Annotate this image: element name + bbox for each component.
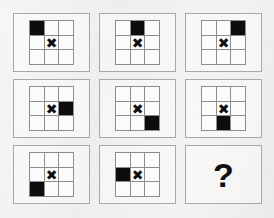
empty-cell: [59, 21, 74, 36]
empty-cell: ✖: [45, 36, 60, 51]
filled-cell: [145, 116, 160, 131]
empty-cell: [131, 153, 146, 168]
empty-cell: [116, 36, 131, 51]
empty-cell: [116, 153, 131, 168]
empty-cell: ✖: [131, 36, 146, 51]
panel-7[interactable]: ✖: [13, 145, 90, 204]
empty-cell: [217, 21, 232, 36]
empty-cell: [145, 21, 160, 36]
empty-cell: [30, 36, 45, 51]
panel-5[interactable]: ✖: [99, 79, 176, 138]
empty-cell: [231, 102, 246, 117]
panel-6[interactable]: ✖: [185, 79, 262, 138]
empty-cell: [30, 50, 45, 65]
empty-cell: [45, 116, 60, 131]
filled-cell: [59, 102, 74, 117]
empty-cell: ✖: [217, 102, 232, 117]
empty-cell: [59, 50, 74, 65]
panel-3[interactable]: ✖: [185, 13, 262, 72]
empty-cell: [116, 116, 131, 131]
mini-grid: ✖: [115, 20, 160, 65]
empty-cell: [59, 182, 74, 197]
x-mark: ✖: [131, 102, 145, 116]
panel-8[interactable]: ✖: [99, 145, 176, 204]
empty-cell: [59, 153, 74, 168]
empty-cell: [30, 168, 45, 183]
empty-cell: [217, 50, 232, 65]
empty-cell: [45, 182, 60, 197]
panel-4[interactable]: ✖: [13, 79, 90, 138]
empty-cell: [131, 50, 146, 65]
mini-grid: ✖: [29, 20, 74, 65]
empty-cell: [145, 153, 160, 168]
filled-cell: [131, 21, 146, 36]
empty-cell: [231, 36, 246, 51]
mini-grid: ✖: [29, 86, 74, 131]
empty-cell: [30, 102, 45, 117]
filled-cell: [231, 21, 246, 36]
empty-cell: ✖: [45, 102, 60, 117]
x-mark: ✖: [45, 36, 59, 50]
empty-cell: [45, 21, 60, 36]
empty-cell: [231, 116, 246, 131]
empty-cell: [217, 87, 232, 102]
empty-cell: [45, 153, 60, 168]
empty-cell: ✖: [217, 36, 232, 51]
empty-cell: [131, 87, 146, 102]
empty-cell: ✖: [45, 168, 60, 183]
empty-cell: [145, 182, 160, 197]
empty-cell: [202, 21, 217, 36]
empty-cell: [59, 116, 74, 131]
filled-cell: [217, 116, 232, 131]
empty-cell: [145, 87, 160, 102]
answer-question-mark: ?: [213, 158, 234, 192]
x-mark: ✖: [217, 102, 231, 116]
empty-cell: [202, 87, 217, 102]
empty-cell: [30, 153, 45, 168]
panel-9-answer[interactable]: ?: [185, 145, 262, 204]
empty-cell: [59, 36, 74, 51]
x-mark: ✖: [217, 36, 231, 50]
empty-cell: [116, 182, 131, 197]
empty-cell: [59, 168, 74, 183]
empty-cell: [30, 116, 45, 131]
empty-cell: [202, 102, 217, 117]
empty-cell: [231, 50, 246, 65]
filled-cell: [30, 182, 45, 197]
empty-cell: [202, 50, 217, 65]
empty-cell: [116, 21, 131, 36]
empty-cell: [116, 87, 131, 102]
x-mark: ✖: [131, 168, 145, 182]
mini-grid: ✖: [115, 86, 160, 131]
empty-cell: [116, 102, 131, 117]
empty-cell: [145, 36, 160, 51]
empty-cell: ✖: [131, 168, 146, 183]
x-mark: ✖: [45, 168, 59, 182]
empty-cell: [202, 116, 217, 131]
empty-cell: [116, 50, 131, 65]
empty-cell: [202, 36, 217, 51]
empty-cell: [131, 116, 146, 131]
empty-cell: [145, 50, 160, 65]
matrix-puzzle-grid: ✖✖✖✖✖✖✖✖?: [13, 13, 262, 203]
x-mark: ✖: [45, 102, 59, 116]
x-mark: ✖: [131, 36, 145, 50]
empty-cell: [145, 168, 160, 183]
empty-cell: ✖: [131, 102, 146, 117]
empty-cell: [59, 87, 74, 102]
filled-cell: [30, 21, 45, 36]
mini-grid: ✖: [201, 20, 246, 65]
filled-cell: [116, 168, 131, 183]
panel-2[interactable]: ✖: [99, 13, 176, 72]
mini-grid: ✖: [115, 152, 160, 197]
mini-grid: ✖: [29, 152, 74, 197]
empty-cell: [145, 102, 160, 117]
empty-cell: [45, 87, 60, 102]
empty-cell: [231, 87, 246, 102]
panel-1[interactable]: ✖: [13, 13, 90, 72]
empty-cell: [45, 50, 60, 65]
empty-cell: [131, 182, 146, 197]
empty-cell: [30, 87, 45, 102]
mini-grid: ✖: [201, 86, 246, 131]
